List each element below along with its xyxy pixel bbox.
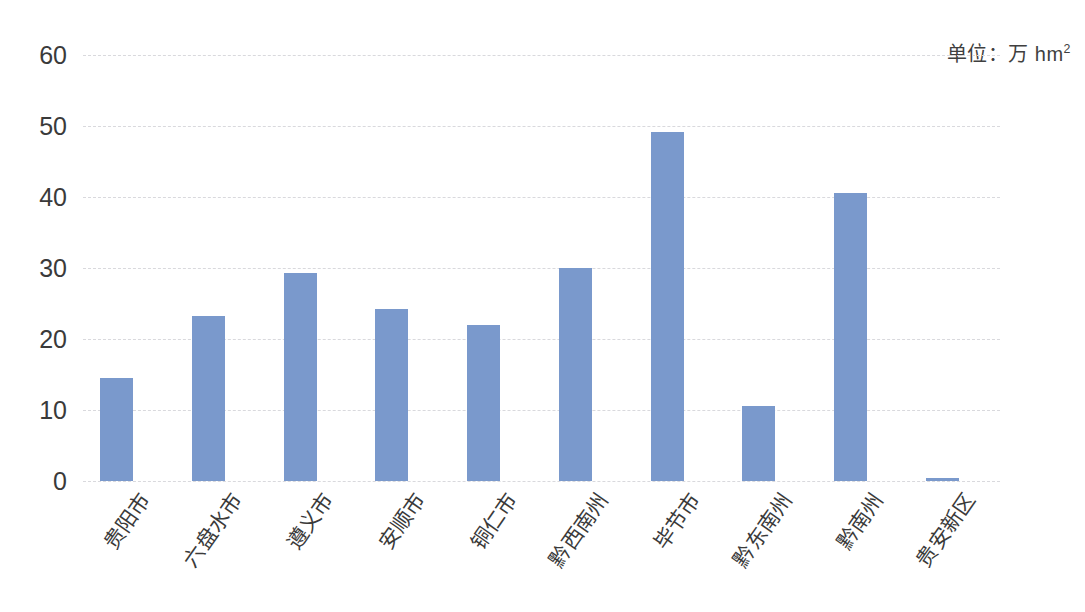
y-tick-label-50: 50 xyxy=(7,112,67,141)
unit-annotation-exponent: 2 xyxy=(1064,42,1071,56)
bar-黔东南州[interactable] xyxy=(742,406,775,481)
bar-series xyxy=(83,55,1000,481)
plot-area xyxy=(83,55,1000,481)
x-tick-label-黔西南州: 黔西南州 xyxy=(541,486,614,572)
x-tick-label-黔东南州: 黔东南州 xyxy=(725,486,798,572)
bar-六盘水市[interactable] xyxy=(192,316,225,481)
y-tick-label-20: 20 xyxy=(7,325,67,354)
bar-安顺市[interactable] xyxy=(375,309,408,481)
bar-黔南州[interactable] xyxy=(834,193,867,481)
y-tick-label-40: 40 xyxy=(7,183,67,212)
y-tick-label-10: 10 xyxy=(7,396,67,425)
bar-贵阳市[interactable] xyxy=(100,378,133,481)
bar-黔西南州[interactable] xyxy=(559,268,592,481)
bar-贵安新区[interactable] xyxy=(926,478,959,481)
x-tick-label-贵安新区: 贵安新区 xyxy=(908,486,981,572)
x-tick-label-毕节市: 毕节市 xyxy=(645,486,706,555)
x-tick-label-安顺市: 安顺市 xyxy=(370,486,431,555)
y-tick-label-60: 60 xyxy=(7,41,67,70)
x-tick-label-遵义市: 遵义市 xyxy=(278,486,339,555)
bar-铜仁市[interactable] xyxy=(467,325,500,481)
bar-遵义市[interactable] xyxy=(284,273,317,481)
x-tick-label-黔南州: 黔南州 xyxy=(828,486,889,555)
bar-chart: 单位：万 hm2 0102030405060 贵阳市六盘水市遵义市安顺市铜仁市黔… xyxy=(0,0,1085,612)
bar-毕节市[interactable] xyxy=(651,132,684,481)
y-tick-label-0: 0 xyxy=(7,467,67,496)
gridline-0 xyxy=(83,481,1000,482)
x-tick-label-贵阳市: 贵阳市 xyxy=(95,486,156,555)
x-tick-label-铜仁市: 铜仁市 xyxy=(462,486,523,555)
x-tick-label-六盘水市: 六盘水市 xyxy=(174,486,247,572)
x-axis-labels: 贵阳市六盘水市遵义市安顺市铜仁市黔西南州毕节市黔东南州黔南州贵安新区 xyxy=(83,486,1000,606)
y-tick-label-30: 30 xyxy=(7,254,67,283)
